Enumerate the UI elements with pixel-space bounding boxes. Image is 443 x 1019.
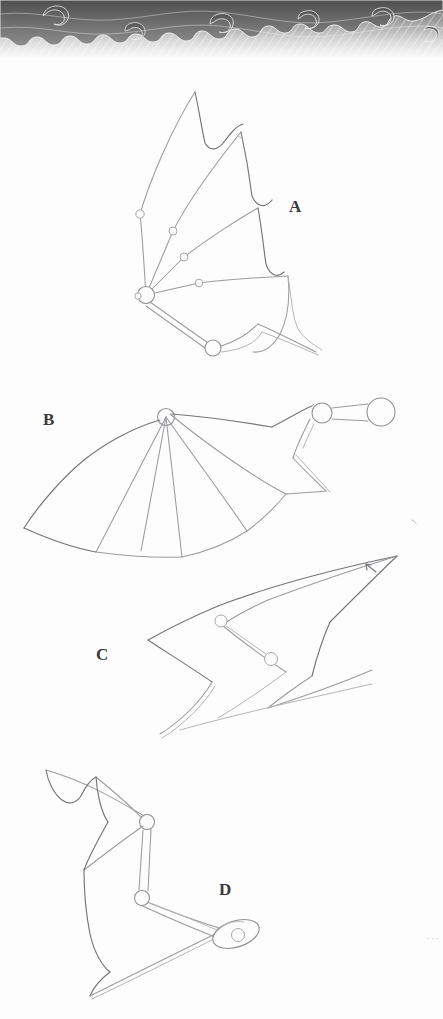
sketch-label-d: D xyxy=(219,880,232,900)
faint-corner-dots: ··· xyxy=(426,932,440,944)
sketch-b xyxy=(24,398,416,557)
joint-wrist-a xyxy=(205,340,221,356)
joint-small-a3 xyxy=(180,253,188,261)
joint-shoulder-outer-b xyxy=(367,398,395,426)
joint-c-upper xyxy=(215,615,227,627)
sketch-label-c: C xyxy=(96,645,109,665)
sketch-label-b: B xyxy=(43,410,55,430)
joint-c-lower xyxy=(265,653,278,666)
joint-small-a4 xyxy=(195,279,203,287)
joint-shoulder-b xyxy=(312,403,332,423)
pencil-sketch-layer: .pl { fill:none; stroke:#b6b6ba; stroke-… xyxy=(0,0,443,1019)
joint-small-a1 xyxy=(136,210,144,218)
joint-small-a2 xyxy=(169,227,177,235)
sketch-c xyxy=(148,556,397,738)
joint-d-elbow xyxy=(135,891,150,906)
sketch-a xyxy=(135,92,322,356)
sketch-label-a: A xyxy=(289,197,302,217)
joint-d-hand xyxy=(232,929,245,942)
sketch-page: .pl { fill:none; stroke:#b6b6ba; stroke-… xyxy=(0,0,443,1019)
joint-small-a0 xyxy=(135,293,141,299)
